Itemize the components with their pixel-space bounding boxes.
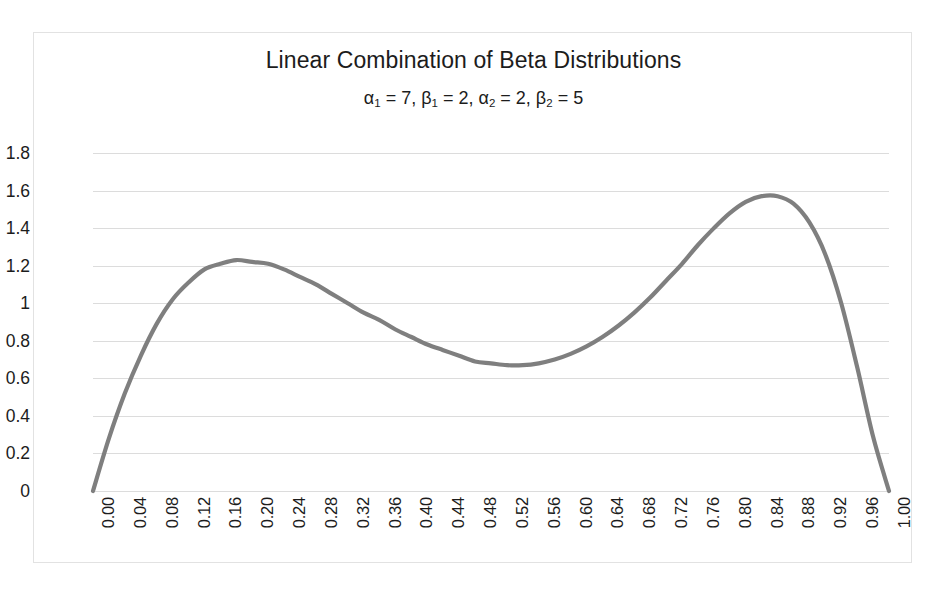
x-tick-label: 0.48 bbox=[481, 497, 500, 528]
x-tick-label: 1.00 bbox=[895, 497, 914, 528]
alpha2-subscript: 2 bbox=[489, 97, 495, 109]
y-tick-label: 0.6 bbox=[0, 368, 30, 389]
chart-title: Linear Combination of Beta Distributions bbox=[34, 47, 913, 74]
beta-mixture-curve-path bbox=[93, 195, 889, 491]
alpha2-symbol: α bbox=[479, 88, 489, 108]
x-tick-label: 0.24 bbox=[290, 497, 309, 528]
gridline bbox=[93, 491, 889, 492]
y-axis-tick-labels: 1.81.61.41.210.80.60.40.20 bbox=[0, 153, 30, 491]
beta1-symbol: β bbox=[421, 88, 431, 108]
x-tick-label: 0.28 bbox=[322, 497, 341, 528]
x-axis-tick-labels: 0.000.040.080.120.160.200.240.280.320.36… bbox=[93, 497, 889, 567]
y-tick-label: 1.8 bbox=[0, 143, 30, 164]
x-tick-label: 0.68 bbox=[640, 497, 659, 528]
beta1-subscript: 1 bbox=[432, 97, 438, 109]
x-tick-label: 0.36 bbox=[386, 497, 405, 528]
x-tick-label: 0.72 bbox=[672, 497, 691, 528]
x-tick-label: 0.32 bbox=[354, 497, 373, 528]
x-tick-label: 0.00 bbox=[99, 497, 118, 528]
data-series-curve bbox=[93, 153, 889, 491]
x-tick-label: 0.96 bbox=[863, 497, 882, 528]
y-tick-label: 0.8 bbox=[0, 330, 30, 351]
beta1-value: 2 bbox=[458, 88, 468, 108]
y-tick-label: 1.4 bbox=[0, 218, 30, 239]
x-tick-label: 0.12 bbox=[195, 497, 214, 528]
x-tick-label: 0.60 bbox=[577, 497, 596, 528]
x-tick-label: 0.56 bbox=[545, 497, 564, 528]
y-tick-label: 0 bbox=[0, 481, 30, 502]
y-tick-label: 0.2 bbox=[0, 443, 30, 464]
chart-figure: Linear Combination of Beta Distributions… bbox=[33, 32, 912, 563]
beta2-value: 5 bbox=[573, 88, 583, 108]
x-tick-label: 0.20 bbox=[258, 497, 277, 528]
x-tick-label: 0.52 bbox=[513, 497, 532, 528]
y-tick-label: 1.6 bbox=[0, 180, 30, 201]
x-tick-label: 0.04 bbox=[131, 497, 150, 528]
x-tick-label: 0.80 bbox=[736, 497, 755, 528]
chart-subtitle: α1 = 7, β1 = 2, α2 = 2, β2 = 5 bbox=[34, 88, 913, 109]
x-tick-label: 0.76 bbox=[704, 497, 723, 528]
x-tick-label: 0.88 bbox=[799, 497, 818, 528]
alpha1-subscript: 1 bbox=[374, 97, 380, 109]
x-tick-label: 0.40 bbox=[417, 497, 436, 528]
x-tick-label: 0.64 bbox=[608, 497, 627, 528]
y-tick-label: 1 bbox=[0, 293, 30, 314]
y-tick-label: 0.4 bbox=[0, 405, 30, 426]
beta2-subscript: 2 bbox=[546, 97, 552, 109]
alpha1-value: 7 bbox=[401, 88, 411, 108]
x-tick-label: 0.16 bbox=[226, 497, 245, 528]
alpha2-value: 2 bbox=[516, 88, 526, 108]
x-tick-label: 0.44 bbox=[449, 497, 468, 528]
x-tick-label: 0.08 bbox=[163, 497, 182, 528]
alpha1-symbol: α bbox=[364, 88, 374, 108]
x-tick-label: 0.92 bbox=[831, 497, 850, 528]
beta2-symbol: β bbox=[536, 88, 546, 108]
x-tick-label: 0.84 bbox=[768, 497, 787, 528]
y-tick-label: 1.2 bbox=[0, 255, 30, 276]
